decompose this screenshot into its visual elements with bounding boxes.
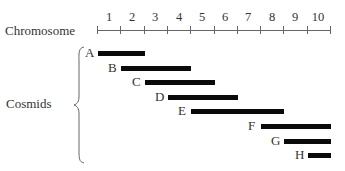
cosmid-label: C [132, 75, 141, 88]
axis-tick [237, 26, 238, 34]
cosmid-bar [121, 66, 191, 71]
axis-tick [307, 26, 308, 34]
axis-tick [283, 26, 284, 34]
segment-number: 2 [122, 11, 142, 23]
segment-number: 1 [99, 11, 119, 23]
cosmid-bar [145, 80, 215, 85]
cosmid-bar [284, 139, 331, 144]
segment-number: 8 [262, 11, 282, 23]
segment-number: 7 [238, 11, 258, 23]
axis-tick [97, 26, 98, 34]
cosmids-label: Cosmids [6, 97, 52, 110]
axis-tick [120, 26, 121, 34]
axis-tick [167, 26, 168, 34]
segment-number: 10 [308, 11, 328, 23]
cosmid-bar [98, 51, 145, 56]
segment-number: 4 [169, 11, 189, 23]
cosmid-label: B [108, 61, 117, 74]
segment-number: 3 [145, 11, 165, 23]
cosmid-bar [308, 153, 331, 158]
cosmids-brace-icon [72, 46, 86, 164]
axis-tick [260, 26, 261, 34]
cosmid-label: A [85, 46, 94, 59]
axis-tick [330, 26, 331, 34]
axis-tick [144, 26, 145, 34]
cosmid-bar [191, 109, 284, 114]
cosmid-label: G [271, 134, 280, 147]
segment-number: 9 [285, 11, 305, 23]
cosmid-label: D [155, 90, 164, 103]
cosmid-bar [261, 124, 331, 129]
axis-tick [190, 26, 191, 34]
segment-number: 5 [192, 11, 212, 23]
axis-tick [214, 26, 215, 34]
segment-number: 6 [215, 11, 235, 23]
cosmid-label: F [248, 119, 255, 132]
cosmid-label: E [178, 104, 186, 117]
cosmid-label: H [295, 148, 304, 161]
cosmid-bar [168, 95, 238, 100]
chromosome-label: Chromosome [5, 24, 75, 37]
